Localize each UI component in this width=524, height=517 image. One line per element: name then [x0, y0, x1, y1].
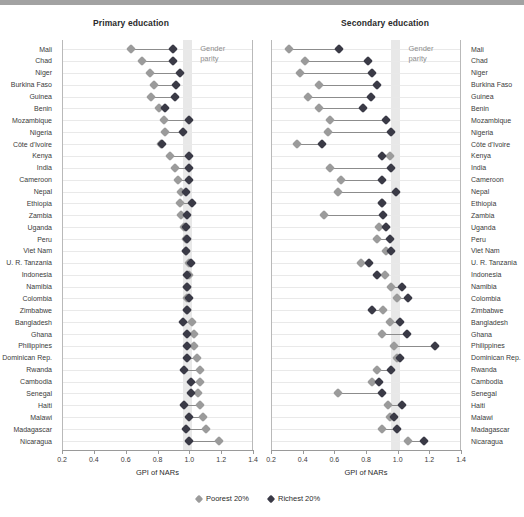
marker-richest-20: [367, 68, 377, 78]
marker-poorest-20: [160, 127, 170, 137]
marker-poorest-20: [195, 400, 205, 410]
country-label: U. R. Tanzania: [6, 259, 52, 266]
marker-richest-20: [372, 270, 382, 280]
country-label: Philippines: [471, 342, 505, 349]
country-label: Uganda: [27, 224, 52, 231]
marker-richest-20: [317, 139, 327, 149]
marker-poorest-20: [319, 210, 329, 220]
x-axis-tick: [303, 450, 304, 454]
row-gridline: [63, 156, 252, 157]
marker-richest-20: [374, 377, 384, 387]
marker-richest-20: [372, 80, 382, 90]
row-gridline: [272, 298, 460, 299]
marker-poorest-20: [192, 353, 202, 363]
country-label: Côte d'Ivoire: [471, 141, 510, 148]
connector-line: [338, 192, 396, 193]
row-gridline: [272, 334, 460, 335]
country-label: Rwanda: [26, 366, 52, 373]
connector-line: [300, 73, 372, 74]
x-axis-tick: [398, 450, 399, 454]
x-axis-tick-label: 0.2: [266, 456, 276, 463]
row-gridline: [63, 215, 252, 216]
x-axis-tick: [94, 450, 95, 454]
marker-richest-20: [363, 56, 373, 66]
marker-richest-20: [377, 151, 387, 161]
row-gridline: [272, 287, 460, 288]
x-axis-title-primary: GPI of NARs: [62, 468, 253, 477]
country-label: Zimbabwe: [20, 307, 52, 314]
country-label: Kenya: [471, 152, 491, 159]
country-label: Dominican Rep.: [2, 354, 52, 361]
legend-swatch-poorest-icon: [195, 495, 203, 503]
marker-richest-20: [430, 341, 440, 351]
row-gridline: [63, 429, 252, 430]
marker-poorest-20: [146, 92, 156, 102]
country-label: India: [471, 164, 486, 171]
marker-poorest-20: [159, 115, 169, 125]
marker-poorest-20: [195, 365, 205, 375]
connector-line: [394, 346, 435, 347]
row-gridline: [63, 393, 252, 394]
connector-line: [131, 49, 174, 50]
x-axis-tick-label: 0.2: [57, 456, 67, 463]
row-gridline: [63, 334, 252, 335]
country-label: Colombia: [471, 295, 501, 302]
marker-poorest-20: [377, 424, 387, 434]
marker-poorest-20: [372, 365, 382, 375]
marker-poorest-20: [165, 151, 175, 161]
marker-poorest-20: [314, 103, 324, 113]
plot-area-secondary: Genderparity: [271, 40, 461, 450]
x-axis-tick: [271, 450, 272, 454]
country-label: Peru: [471, 236, 486, 243]
row-gridline: [272, 405, 460, 406]
country-label: Cambodia: [471, 378, 503, 385]
row-gridline: [63, 358, 252, 359]
row-gridline: [272, 251, 460, 252]
gender-parity-annotation: Genderparity: [200, 44, 225, 63]
country-label: Senegal: [471, 390, 497, 397]
country-label: Zambia: [29, 212, 52, 219]
x-axis-tick: [62, 450, 63, 454]
row-gridline: [63, 192, 252, 193]
marker-poorest-20: [201, 424, 211, 434]
marker-poorest-20: [292, 139, 302, 149]
marker-richest-20: [419, 436, 429, 446]
row-gridline: [63, 405, 252, 406]
row-gridline: [63, 322, 252, 323]
country-label: Haiti: [471, 402, 485, 409]
x-axis-secondary: 0.20.40.60.81.01.21.4: [271, 450, 461, 451]
country-label: Nigeria: [471, 129, 493, 136]
country-label: Dominican Rep.: [471, 354, 521, 361]
marker-richest-20: [168, 44, 178, 54]
marker-richest-20: [402, 329, 412, 339]
row-gridline: [63, 417, 252, 418]
row-gridline: [272, 239, 460, 240]
row-gridline: [272, 441, 460, 442]
country-label: Nepal: [471, 188, 489, 195]
country-label: Zambia: [471, 212, 494, 219]
connector-line: [341, 180, 382, 181]
x-axis-tick: [253, 450, 254, 454]
marker-richest-20: [377, 389, 387, 399]
connector-line: [319, 108, 363, 109]
marker-richest-20: [358, 103, 368, 113]
x-axis-tick-label: 0.8: [361, 456, 371, 463]
x-axis-tick-label: 0.6: [121, 456, 131, 463]
connector-line: [324, 215, 384, 216]
row-gridline: [272, 156, 460, 157]
marker-richest-20: [381, 115, 391, 125]
marker-poorest-20: [333, 187, 343, 197]
connector-line: [330, 168, 391, 169]
country-label: India: [37, 164, 52, 171]
marker-richest-20: [378, 210, 388, 220]
country-label: Bangladesh: [471, 319, 508, 326]
marker-poorest-20: [323, 127, 333, 137]
row-gridline: [63, 180, 252, 181]
row-gridline: [63, 132, 252, 133]
country-label: Niger: [471, 69, 488, 76]
chart-legend: Poorest 20% Richest 20%: [0, 494, 524, 508]
marker-richest-20: [403, 294, 413, 304]
x-axis-tick-label: 1.0: [393, 456, 403, 463]
country-label: Cameroon: [19, 176, 52, 183]
country-labels-left: MaliChadNigerBurkina FasoGuineaBeninMoza…: [0, 40, 58, 450]
